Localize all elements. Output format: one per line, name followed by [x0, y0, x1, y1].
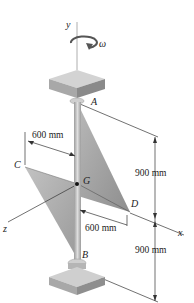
upper-plate — [78, 104, 130, 212]
point-D-label: D — [131, 199, 138, 209]
upper-600mm-label: 600 mm — [32, 131, 63, 141]
rotating-plate-diagram: y ω A 600 mm C 900 mm G D 600 mm x z 900… — [0, 0, 194, 303]
lower-900mm-label: 900 mm — [135, 246, 166, 256]
angular-velocity-arrow-icon — [71, 36, 97, 50]
lower-plate — [25, 167, 78, 260]
center-of-mass-G — [75, 182, 79, 186]
y-axis-label: y — [66, 20, 70, 30]
point-B-label: B — [82, 250, 88, 260]
point-A-label: A — [91, 97, 97, 107]
diagram-canvas — [0, 0, 194, 303]
point-C-label: C — [14, 160, 21, 170]
point-G-label: G — [83, 176, 90, 186]
z-axis-label: z — [3, 224, 7, 234]
x-axis-label: x — [178, 228, 182, 238]
bottom-bearing — [49, 259, 105, 295]
lower-600mm-label: 600 mm — [85, 224, 116, 234]
omega-label: ω — [99, 39, 106, 49]
upper-900mm-label: 900 mm — [135, 169, 166, 179]
